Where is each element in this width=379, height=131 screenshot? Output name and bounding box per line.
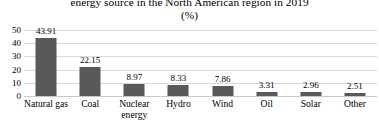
bar[interactable] xyxy=(124,84,145,96)
y-axis: 50403020100 xyxy=(0,30,24,96)
x-axis-category-label: Other xyxy=(333,98,377,109)
x-axis-category-label: Natural gas xyxy=(24,98,68,109)
bar[interactable] xyxy=(36,38,57,96)
bar-value-label: 43.91 xyxy=(36,27,56,36)
x-axis-category-label: Solar xyxy=(289,98,333,109)
y-axis-tick-label: 0 xyxy=(17,92,22,101)
bar-value-label: 2.96 xyxy=(303,81,319,90)
bar[interactable] xyxy=(344,93,365,96)
x-axis-category-label-line: Natural gas xyxy=(24,98,68,109)
bar-slot: 3.31 xyxy=(245,30,289,96)
x-axis-category-label: Wind xyxy=(201,98,245,109)
bar-value-label: 22.15 xyxy=(80,56,100,65)
y-axis-tick-label: 50 xyxy=(12,26,21,35)
x-axis-category-label-line: Nuclear xyxy=(112,98,156,109)
bar-slot: 22.15 xyxy=(68,30,112,96)
y-axis-tick-label: 40 xyxy=(12,39,21,48)
bar-value-label: 7.86 xyxy=(215,75,231,84)
bar-chart-figure: Share of electricity production by energ… xyxy=(0,0,379,131)
x-axis-category-label: Oil xyxy=(245,98,289,109)
bar[interactable] xyxy=(256,92,277,96)
bar-value-label: 2.51 xyxy=(347,82,363,91)
x-axis-category-labels: Natural gasCoalNuclearenergyHydroWindOil… xyxy=(24,98,377,130)
bars-group: 43.9122.158.978.337.863.312.962.51 xyxy=(24,30,377,96)
x-axis-category-label-line: Coal xyxy=(68,98,112,109)
bar[interactable] xyxy=(80,67,101,96)
x-axis-category-label-line: Other xyxy=(333,98,377,109)
bar[interactable] xyxy=(212,86,233,96)
chart-title-block: Share of electricity production by energ… xyxy=(0,0,379,22)
bar-value-label: 8.33 xyxy=(171,74,187,83)
bar-value-label: 3.31 xyxy=(259,81,275,90)
bar-slot: 7.86 xyxy=(201,30,245,96)
chart-subtitle-units: (%) xyxy=(0,9,379,22)
x-axis-category-label-line: energy xyxy=(112,109,156,120)
y-axis-tick-label: 30 xyxy=(12,52,21,61)
x-axis-category-label: Coal xyxy=(68,98,112,109)
axis-baseline xyxy=(24,96,377,97)
x-axis-category-label-line: Hydro xyxy=(156,98,200,109)
x-axis-category-label-line: Oil xyxy=(245,98,289,109)
x-axis-category-label-line: Solar xyxy=(289,98,333,109)
bar-slot: 8.33 xyxy=(156,30,200,96)
bar[interactable] xyxy=(168,85,189,96)
bar-slot: 2.96 xyxy=(289,30,333,96)
x-axis-category-label: Nuclearenergy xyxy=(112,98,156,120)
chart-title-line-2: energy source in the North American regi… xyxy=(0,0,379,9)
plot-area: 50403020100 43.9122.158.978.337.863.312.… xyxy=(0,30,379,131)
y-axis-tick-label: 20 xyxy=(12,65,21,74)
bar-slot: 8.97 xyxy=(112,30,156,96)
x-axis-category-label: Hydro xyxy=(156,98,200,109)
bar-slot: 2.51 xyxy=(333,30,377,96)
bar-value-label: 8.97 xyxy=(126,73,142,82)
bar-slot: 43.91 xyxy=(24,30,68,96)
x-axis-category-label-line: Wind xyxy=(201,98,245,109)
bar[interactable] xyxy=(300,92,321,96)
y-axis-tick-label: 10 xyxy=(12,78,21,87)
